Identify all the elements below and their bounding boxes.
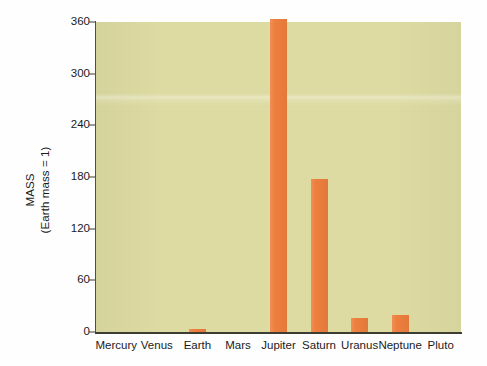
bar-saturn — [311, 179, 328, 332]
x-tick-label-earth: Earth — [184, 338, 212, 352]
y-tick-label: 240 — [60, 120, 90, 132]
bar-neptune — [392, 315, 409, 332]
x-axis-tick-labels: MercuryVenusEarthMarsJupiterSaturnUranus… — [96, 338, 461, 358]
y-tick-label: 180 — [60, 171, 90, 183]
x-tick-label-uranus: Uranus — [341, 338, 378, 352]
x-tick-label-venus: Venus — [141, 338, 173, 352]
bar-earth — [189, 329, 206, 332]
bar-uranus — [351, 318, 368, 332]
y-axis-title-line1: MASS — [23, 147, 38, 234]
y-tick-label: 60 — [60, 275, 90, 287]
x-axis-line — [95, 332, 462, 334]
plot-area — [96, 22, 461, 332]
x-tick-label-neptune: Neptune — [378, 338, 421, 352]
x-tick-label-jupiter: Jupiter — [261, 338, 296, 352]
bar-jupiter — [270, 19, 287, 332]
y-tick-label: 0 — [60, 326, 90, 338]
y-axis-title-line2: (Earth mass = 1) — [37, 147, 52, 234]
x-tick-label-pluto: Pluto — [428, 338, 454, 352]
y-tick-label: 300 — [60, 68, 90, 80]
y-axis-title: MASS (Earth mass = 1) — [14, 120, 60, 260]
y-tick-label: 120 — [60, 223, 90, 235]
y-tick-label: 360 — [60, 16, 90, 28]
x-tick-label-mars: Mars — [225, 338, 251, 352]
x-tick-label-mercury: Mercury — [96, 338, 138, 352]
x-tick-label-saturn: Saturn — [302, 338, 336, 352]
mass-bar-chart: MASS (Earth mass = 1) 060120180240300360… — [0, 0, 487, 366]
y-axis-tick-labels: 060120180240300360 — [57, 0, 90, 366]
